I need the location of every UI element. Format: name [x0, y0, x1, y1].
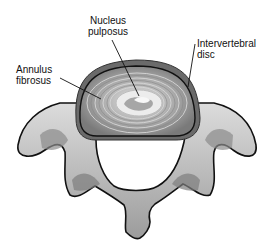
- leader-disc: [188, 44, 195, 87]
- label-intervertebral-disc: Intervertebral disc: [197, 38, 256, 60]
- label-annulus-fibrosus: Annulus fibrosus: [16, 64, 52, 86]
- vertebra-diagram: Nucleus pulposus Annulus fibrosus Interv…: [0, 0, 273, 250]
- label-nucleus-pulposus: Nucleus pulposus: [88, 15, 128, 37]
